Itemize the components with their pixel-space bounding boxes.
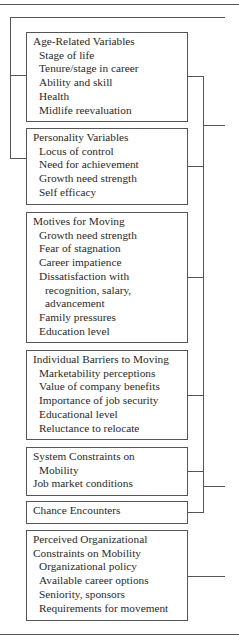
list-item: Midlife reevaluation: [33, 104, 187, 118]
list-item: Organizational policy: [33, 560, 187, 574]
box-title-continued: Constraints on Mobility: [33, 547, 187, 561]
left-connector-box2: [10, 158, 26, 159]
list-item: Locus of control: [33, 145, 187, 159]
list-item: Career impatience: [33, 256, 187, 270]
list-subitem: advancement: [33, 297, 187, 311]
output-arrow-upper: [203, 125, 225, 126]
right-bracket-line: [203, 76, 204, 513]
right-connector-box1: [188, 76, 204, 77]
list-item: Growth need strength: [33, 172, 187, 186]
personality-variables-box: Personality Variables Locus of control N…: [26, 128, 188, 205]
right-connector-box4: [188, 395, 204, 396]
right-connector-box5: [188, 471, 204, 472]
top-bracket-line: [10, 17, 225, 18]
list-item: Marketability perceptions: [33, 367, 187, 381]
list-item: Requirements for movement: [33, 602, 187, 616]
individual-barriers-box: Individual Barriers to Moving Marketabil…: [26, 350, 188, 440]
left-connector-box1: [10, 75, 26, 76]
motives-for-moving-box: Motives for Moving Growth need strength …: [26, 212, 188, 343]
box-title: Perceived Organizational: [33, 533, 187, 547]
box-title: Personality Variables: [33, 131, 187, 145]
list-item: Importance of job security: [33, 394, 187, 408]
age-related-variables-box: Age-Related Variables Stage of life Tenu…: [26, 32, 188, 122]
list-subitem: recognition, salary,: [33, 284, 187, 298]
list-item: Available career options: [33, 574, 187, 588]
list-item: Reluctance to relocate: [33, 422, 187, 436]
list-item: Dissatisfaction with: [33, 270, 187, 284]
box-title: Motives for Moving: [33, 215, 187, 229]
bottom-rule: [0, 634, 239, 635]
chance-encounters-box: Chance Encounters: [26, 501, 188, 524]
box-title: System Constraints on: [33, 450, 187, 464]
list-item: Stage of life: [33, 49, 187, 63]
list-item: Tenure/stage in career: [33, 62, 187, 76]
box-title: Individual Barriers to Moving: [33, 353, 187, 367]
list-item: Need for achievement: [33, 158, 187, 172]
list-item: Fear of stagnation: [33, 242, 187, 256]
list-item: Health: [33, 90, 187, 104]
box-title: Chance Encounters: [33, 504, 187, 518]
box-title-continued: Mobility: [33, 464, 187, 478]
output-arrow-box7: [188, 576, 225, 577]
left-bracket-line: [10, 17, 11, 159]
output-arrow-lower: [203, 486, 225, 487]
box-title: Age-Related Variables: [33, 35, 187, 49]
perceived-organizational-constraints-box: Perceived Organizational Constraints on …: [26, 530, 188, 621]
list-item: Educational level: [33, 408, 187, 422]
right-connector-box6: [188, 512, 204, 513]
top-rule: [0, 4, 239, 5]
list-item: Seniority, sponsors: [33, 588, 187, 602]
right-connector-box3: [188, 277, 204, 278]
list-item: Family pressures: [33, 311, 187, 325]
right-connector-box2: [188, 166, 204, 167]
list-item: Value of company benefits: [33, 380, 187, 394]
list-item: Ability and skill: [33, 76, 187, 90]
list-item: Job market conditions: [33, 477, 187, 491]
list-item: Growth need strength: [33, 229, 187, 243]
list-item: Self efficacy: [33, 186, 187, 200]
system-constraints-box: System Constraints on Mobility Job marke…: [26, 447, 188, 496]
list-item: Education level: [33, 325, 187, 339]
